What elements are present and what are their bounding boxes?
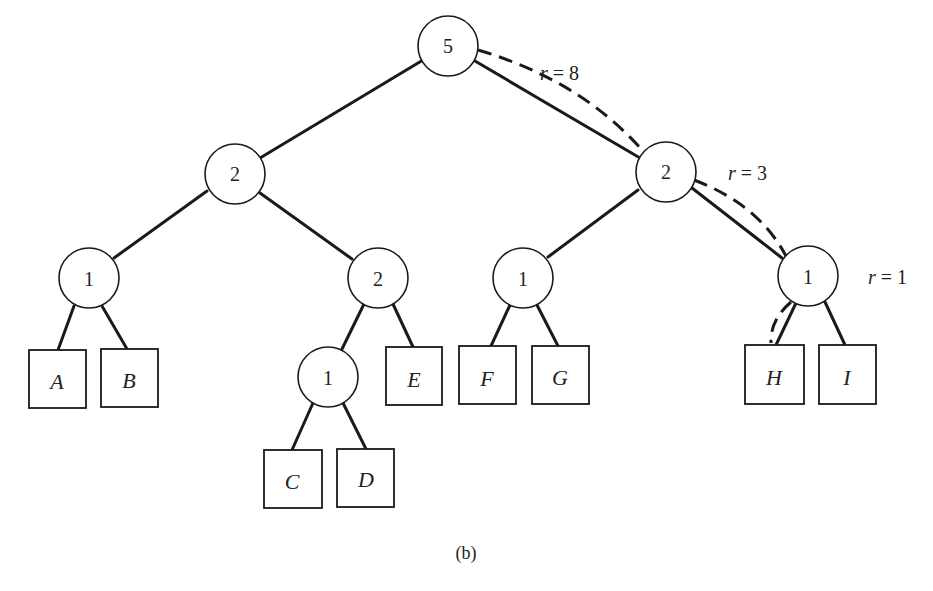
leaf-label: C	[285, 469, 300, 494]
edge-LR-E	[393, 304, 413, 347]
edge-LRL-C	[292, 403, 313, 450]
r-label-R: r = 3	[728, 162, 767, 184]
edge-R-RR	[692, 188, 782, 258]
edge-root-L	[260, 60, 423, 158]
leaf-label: F	[479, 366, 494, 391]
leaf-E: E	[386, 347, 442, 405]
leaf-label: G	[552, 365, 568, 390]
edge-L-LL	[114, 191, 207, 258]
node-value: 1	[323, 367, 333, 389]
node-root: 5	[418, 16, 478, 76]
node-RR: 1	[778, 246, 838, 306]
leaf-B: B	[101, 349, 158, 407]
leaf-I: I	[819, 345, 876, 404]
leaf-H: H	[745, 345, 804, 404]
node-L: 2	[205, 144, 265, 204]
leaf-A: A	[29, 350, 86, 408]
r-label-RR: r = 1	[868, 266, 907, 288]
leaf-G: G	[532, 346, 589, 404]
r-label-root: r = 8	[540, 62, 579, 84]
edge-RL-G	[537, 305, 558, 346]
leaf-nodes: A B C D E F G H	[29, 345, 876, 508]
leaf-label: B	[122, 368, 135, 393]
node-value: 5	[443, 35, 453, 57]
r-labels: r = 8 r = 3 r = 1	[540, 62, 907, 288]
edge-L-LR	[260, 193, 352, 259]
node-RL: 1	[493, 248, 553, 308]
node-value: 2	[373, 268, 383, 290]
edge-LR-LRL	[342, 304, 364, 349]
edge-LRL-D	[343, 403, 366, 449]
leaf-label: E	[406, 367, 421, 392]
leaf-label: H	[765, 365, 783, 390]
leaf-label: D	[357, 467, 374, 492]
edge-R-RL	[548, 190, 638, 257]
node-LRL: 1	[298, 347, 358, 407]
node-value: 2	[230, 163, 240, 185]
figure-caption: (b)	[456, 543, 477, 564]
dashed-edge-R-RR	[694, 180, 787, 258]
node-LL: 1	[59, 248, 119, 308]
leaf-label: A	[48, 369, 64, 394]
node-value: 1	[84, 268, 94, 290]
node-R: 2	[636, 142, 696, 202]
leaf-C: C	[264, 450, 322, 508]
node-value: 2	[661, 161, 671, 183]
leaf-F: F	[459, 346, 516, 404]
tree-edges	[58, 60, 845, 450]
edge-RR-H	[776, 303, 796, 345]
node-value: 1	[803, 266, 813, 288]
leaf-D: D	[337, 449, 394, 507]
edge-RR-I	[825, 302, 845, 345]
binary-tree-diagram: 5 2 2 1 2 1 1 1	[0, 0, 933, 591]
edge-RL-F	[491, 305, 510, 346]
node-LR: 2	[348, 248, 408, 308]
edge-LL-A	[58, 306, 74, 350]
node-value: 1	[518, 268, 528, 290]
edge-LL-B	[102, 306, 127, 349]
